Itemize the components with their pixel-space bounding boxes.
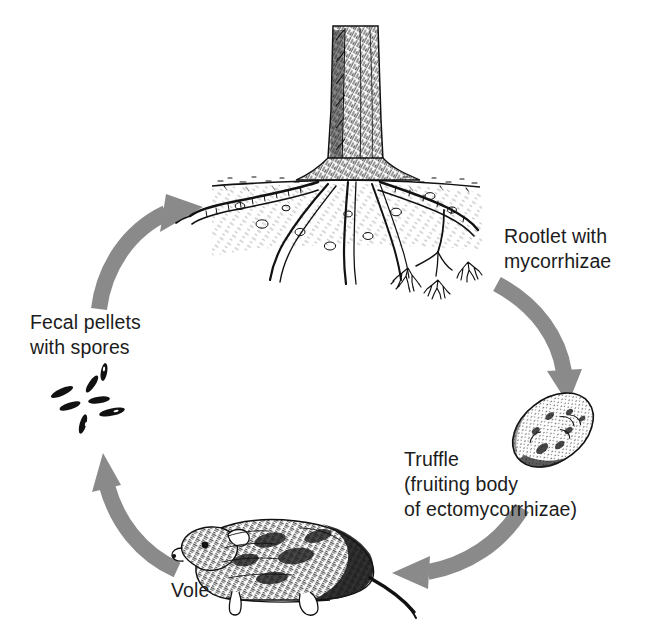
label-vole: Vole bbox=[171, 578, 209, 603]
label-fecal-pellets-with-spores: Fecal pellets with spores bbox=[30, 310, 141, 360]
arrow-tree-to-truffle bbox=[497, 284, 582, 404]
figure-canvas: Rootlet with mycorrhizae Truffle (fruiti… bbox=[0, 0, 662, 642]
arrow-vole-to-pellets bbox=[92, 453, 177, 570]
fecal-pellets bbox=[50, 363, 126, 435]
arrow-pellets-to-tree bbox=[99, 194, 203, 309]
mycorrhizae-cluster bbox=[391, 262, 482, 299]
conifer-tree-with-roots bbox=[176, 26, 482, 299]
label-rootlet-with-mycorrhizae: Rootlet with mycorrhizae bbox=[504, 224, 611, 274]
label-truffle-fruiting-body: Truffle (fruiting body of ectomycorrhiza… bbox=[404, 447, 577, 522]
vole-rodent bbox=[172, 520, 416, 618]
